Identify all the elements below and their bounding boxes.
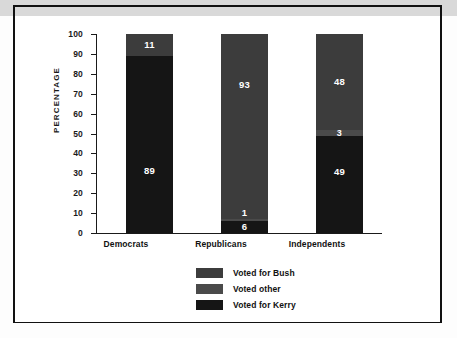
legend-item-kerry[interactable]: Voted for Kerry [196, 298, 296, 312]
bar-independents[interactable]: 48 3 49 [316, 34, 363, 233]
bar-value-kerry-independents: 49 [316, 167, 363, 177]
y-tick-label-10: 10 [73, 208, 83, 218]
y-tick-0: 0 [91, 233, 96, 234]
y-axis-title: PERCENTAGE [52, 67, 61, 133]
legend-label-other: Voted other [233, 284, 281, 294]
y-tick-label-100: 100 [68, 29, 83, 39]
y-tick-20: 20 [91, 193, 96, 194]
y-tick-label-30: 30 [73, 168, 83, 178]
bar-value-bush-independents: 48 [316, 77, 363, 87]
y-tick-40: 40 [91, 153, 96, 154]
legend-item-other[interactable]: Voted other [196, 282, 296, 296]
bar-value-other-republicans: 1 [221, 208, 268, 218]
bar-segment-bush-republicans[interactable]: 93 [221, 34, 268, 219]
y-tick-label-20: 20 [73, 188, 83, 198]
y-axis-line [96, 34, 97, 233]
chart-legend: Voted for Bush Voted other Voted for Ker… [196, 266, 296, 314]
x-category-label-republicans: Republicans [166, 239, 276, 249]
y-tick-30: 30 [91, 173, 96, 174]
y-tick-90: 90 [91, 54, 96, 55]
y-tick-label-40: 40 [73, 148, 83, 158]
y-tick-100: 100 [91, 34, 96, 35]
bar-democrats[interactable]: 11 89 [126, 34, 173, 233]
bar-segment-kerry-independents[interactable]: 49 [316, 136, 363, 234]
bar-value-bush-democrats: 11 [126, 40, 173, 50]
y-tick-label-0: 0 [78, 228, 83, 238]
plot-area: 100 90 80 70 60 50 40 30 20 10 0 11 89 D… [96, 34, 382, 233]
legend-swatch-bush-icon [196, 268, 223, 278]
y-tick-label-80: 80 [73, 69, 83, 79]
y-tick-label-50: 50 [73, 129, 83, 139]
y-tick-70: 70 [91, 94, 96, 95]
y-tick-label-60: 60 [73, 109, 83, 119]
y-tick-60: 60 [91, 114, 96, 115]
legend-label-bush: Voted for Bush [233, 268, 295, 278]
legend-item-bush[interactable]: Voted for Bush [196, 266, 296, 280]
legend-swatch-other-icon [196, 284, 223, 294]
bar-segment-kerry-democrats[interactable]: 89 [126, 56, 173, 233]
legend-label-kerry: Voted for Kerry [233, 300, 296, 310]
x-category-label-independents: Independents [262, 239, 372, 249]
y-tick-label-70: 70 [73, 89, 83, 99]
y-tick-label-90: 90 [73, 49, 83, 59]
x-category-label-democrats: Democrats [71, 239, 181, 249]
y-tick-50: 50 [91, 134, 96, 135]
bar-segment-kerry-republicans[interactable]: 6 [221, 221, 268, 233]
legend-swatch-kerry-icon [196, 300, 223, 310]
y-tick-80: 80 [91, 74, 96, 75]
figure-page: PERCENTAGE 100 90 80 70 60 50 40 30 20 1… [0, 0, 457, 338]
y-tick-10: 10 [91, 213, 96, 214]
bar-value-kerry-democrats: 89 [126, 166, 173, 176]
x-axis-line [96, 233, 382, 234]
bar-value-kerry-republicans: 6 [221, 222, 268, 232]
bar-value-bush-republicans: 93 [221, 80, 268, 90]
bar-republicans[interactable]: 93 1 6 [221, 34, 268, 233]
bar-segment-bush-democrats[interactable]: 11 [126, 34, 173, 56]
bar-segment-bush-independents[interactable]: 48 [316, 34, 363, 130]
